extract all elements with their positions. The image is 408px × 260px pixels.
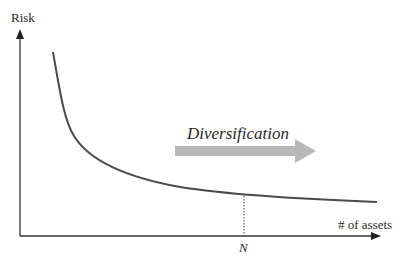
y-axis: Risk [11,10,35,236]
n-label: N [238,240,249,255]
diversification-annotation: Diversification [175,124,316,163]
y-axis-arrowhead-icon [16,29,24,39]
x-axis-label: # of assets [338,217,392,232]
chart-svg: Risk # of assets N Diversification [0,0,408,260]
n-marker: N [238,196,249,255]
diversification-chart: Risk # of assets N Diversification [0,0,408,260]
y-axis-label: Risk [11,10,35,25]
x-axis: # of assets [20,217,392,240]
x-axis-arrowhead-icon [371,232,381,240]
diversification-label: Diversification [186,124,289,143]
